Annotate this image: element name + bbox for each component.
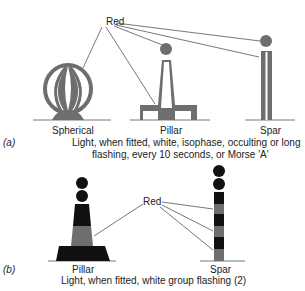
buoy-diagram: Red	[0, 0, 305, 291]
label-pillar-a: Pillar	[160, 125, 183, 136]
section-b: Red Pillar Spar	[3, 165, 246, 286]
label-spherical: Spherical	[52, 125, 94, 136]
section-a-marker: (a)	[3, 137, 15, 148]
spar-buoy-icon-b	[200, 165, 245, 261]
pillar-buoy-icon-a	[130, 43, 210, 120]
label-pillar-b: Pillar	[72, 264, 95, 275]
section-b-marker: (b)	[3, 264, 15, 275]
red-callout-label-b: Red	[143, 196, 161, 207]
callout-lines-b	[94, 202, 213, 250]
label-spar-b: Spar	[210, 264, 232, 275]
caption-a-line2: flashing, every 10 seconds, or Morse 'A'	[92, 149, 269, 160]
red-callout-label-a: Red	[106, 16, 124, 27]
section-a: Red	[3, 16, 300, 160]
pillar-buoy-icon-b	[48, 177, 116, 261]
spherical-buoy-icon	[33, 65, 111, 120]
spar-buoy-icon-a	[245, 35, 295, 120]
label-spar-a: Spar	[260, 125, 282, 136]
caption-a-line1: Light, when fitted, white, isophase, occ…	[72, 137, 300, 148]
caption-b: Light, when fitted, white group flashing…	[61, 275, 246, 286]
